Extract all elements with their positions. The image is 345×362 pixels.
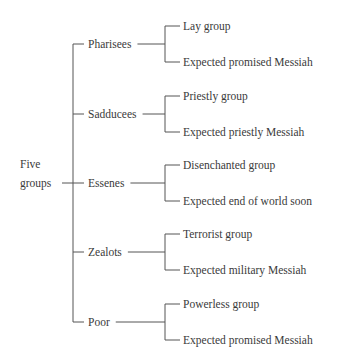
group-branch: PhariseesLay groupExpected promised Mess… <box>73 20 313 69</box>
leaf-label: Powerless group <box>183 298 260 311</box>
group-label: Poor <box>88 316 110 328</box>
leaf-label: Expected end of world soon <box>183 195 312 208</box>
leaf-label: Priestly group <box>183 90 248 103</box>
leaf-label: Expected promised Messiah <box>183 56 313 69</box>
leaf-label: Expected promised Messiah <box>183 334 313 347</box>
group-label: Pharisees <box>88 38 132 50</box>
tree-diagram: Five groups PhariseesLay groupExpected p… <box>0 0 345 362</box>
group-branch: ZealotsTerrorist groupExpected military … <box>73 228 307 277</box>
leaf-label: Disenchanted group <box>183 159 276 172</box>
group-label: Essenes <box>88 177 125 189</box>
group-branch: PoorPowerless groupExpected promised Mes… <box>73 298 313 347</box>
root-label-line2: groups <box>20 177 52 190</box>
group-branch: SadduceesPriestly groupExpected priestly… <box>73 90 305 139</box>
leaf-label: Expected priestly Messiah <box>183 126 305 139</box>
leaf-label: Lay group <box>183 20 231 33</box>
group-label: Zealots <box>88 246 122 258</box>
leaf-label: Terrorist group <box>183 228 252 241</box>
leaf-label: Expected military Messiah <box>183 264 307 277</box>
root-label-line1: Five <box>20 158 40 170</box>
group-label: Sadducees <box>88 108 137 120</box>
group-branch: EssenesDisenchanted groupExpected end of… <box>73 159 312 208</box>
